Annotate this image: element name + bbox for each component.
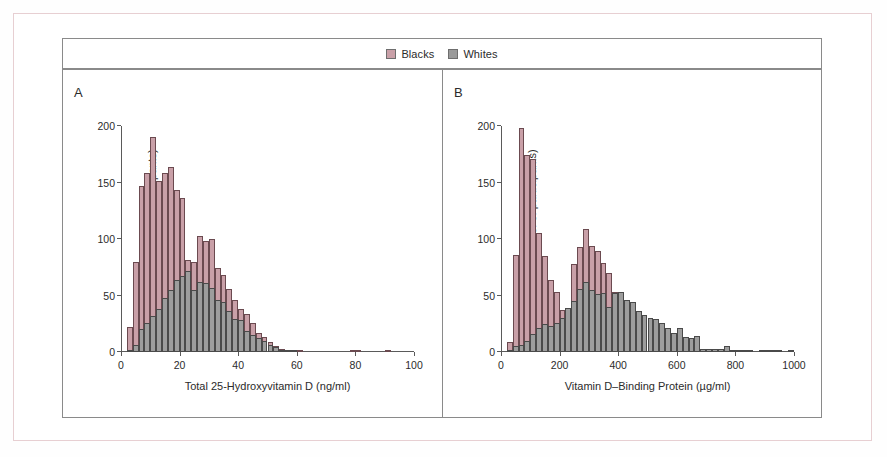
- x-tick-label: 40: [232, 359, 244, 371]
- panel-a-xlabel: Total 25-Hydroxyvitamin D (ng/ml): [121, 380, 414, 392]
- histogram-bar: [297, 350, 303, 352]
- x-tick-label: 80: [350, 359, 362, 371]
- x-tick: [238, 352, 239, 356]
- y-tick: [497, 238, 501, 239]
- y-tick: [117, 182, 121, 183]
- x-tick: [355, 352, 356, 356]
- x-tick: [414, 352, 415, 356]
- panel-b-letter: B: [454, 85, 463, 100]
- x-tick-label: 0: [498, 359, 504, 371]
- x-tick: [121, 352, 122, 356]
- histogram-bar: [385, 350, 391, 352]
- x-tick: [180, 352, 181, 356]
- panel-b-plot: Frequency (no. of participants) Vitamin …: [501, 96, 794, 352]
- panel-b-bars: [501, 126, 794, 352]
- y-tick: [497, 125, 501, 126]
- y-tick-label: 100: [97, 233, 115, 245]
- y-tick-label: 50: [483, 290, 495, 302]
- figure-page: Blacks Whites A Frequency (no. of partic…: [0, 0, 887, 457]
- x-tick: [618, 352, 619, 356]
- panel-a-letter: A: [74, 85, 83, 100]
- x-tick-label: 600: [668, 359, 686, 371]
- histogram-bar: [776, 350, 782, 352]
- legend: Blacks Whites: [62, 38, 822, 69]
- y-tick: [497, 295, 501, 296]
- y-tick-label: 150: [97, 177, 115, 189]
- x-tick-label: 0: [118, 359, 124, 371]
- y-tick-label: 200: [477, 120, 495, 132]
- y-tick: [117, 295, 121, 296]
- legend-items: Blacks Whites: [386, 48, 497, 60]
- y-tick: [497, 351, 501, 352]
- histogram-bar: [291, 350, 297, 352]
- legend-item-whites: Whites: [448, 48, 497, 60]
- panels-row: A Frequency (no. of participants) Total …: [62, 69, 822, 418]
- y-tick: [117, 238, 121, 239]
- x-tick: [501, 352, 502, 356]
- x-tick-label: 400: [609, 359, 627, 371]
- x-tick-label: 20: [174, 359, 186, 371]
- x-tick-label: 60: [291, 359, 303, 371]
- x-tick-label: 100: [405, 359, 423, 371]
- legend-swatch-blacks-icon: [386, 49, 396, 59]
- panel-b-y-axis: [501, 126, 502, 352]
- histogram-bar: [355, 350, 361, 352]
- x-tick: [560, 352, 561, 356]
- x-tick: [735, 352, 736, 356]
- legend-label-whites: Whites: [463, 48, 497, 60]
- histogram-bar: [788, 350, 794, 352]
- x-tick: [794, 352, 795, 356]
- y-tick: [117, 125, 121, 126]
- histogram-bar: [747, 350, 753, 352]
- legend-swatch-whites-icon: [448, 49, 458, 59]
- panel-a-plot: Frequency (no. of participants) Total 25…: [121, 96, 414, 352]
- panel-a: A Frequency (no. of participants) Total …: [62, 69, 442, 418]
- y-tick-label: 0: [489, 346, 495, 358]
- x-tick: [297, 352, 298, 356]
- y-tick: [117, 351, 121, 352]
- x-tick-label: 1000: [782, 359, 805, 371]
- y-tick-label: 50: [103, 290, 115, 302]
- y-tick: [497, 182, 501, 183]
- legend-label-blacks: Blacks: [401, 48, 434, 60]
- y-tick-label: 100: [477, 233, 495, 245]
- x-tick-label: 200: [551, 359, 569, 371]
- y-tick-label: 0: [109, 346, 115, 358]
- panel-a-bars: [121, 126, 414, 352]
- x-tick-label: 800: [727, 359, 745, 371]
- panel-a-y-axis: [121, 126, 122, 352]
- y-tick-label: 200: [97, 120, 115, 132]
- y-tick-label: 150: [477, 177, 495, 189]
- panel-b: B Frequency (no. of participants) Vitami…: [442, 69, 822, 418]
- panel-b-xlabel: Vitamin D–Binding Protein (µg/ml): [501, 380, 794, 392]
- legend-item-blacks: Blacks: [386, 48, 434, 60]
- x-tick: [677, 352, 678, 356]
